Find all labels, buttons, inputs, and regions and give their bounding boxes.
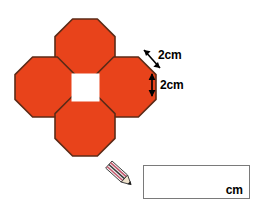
answer-unit-label: cm (226, 184, 243, 196)
dimension-label-slant: 2cm (158, 49, 181, 61)
answer-input[interactable] (144, 166, 222, 198)
dimension-label-vertical: 2cm (160, 79, 183, 91)
center-square (72, 74, 100, 102)
pencil-icon (106, 161, 135, 188)
worksheet-canvas: 2cm 2cm cm (0, 0, 254, 212)
answer-box[interactable]: cm (143, 165, 250, 199)
octagon-bottom (55, 96, 115, 156)
